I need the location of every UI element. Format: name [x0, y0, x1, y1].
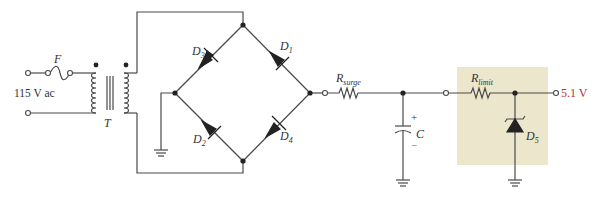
d4-label: D4 [279, 129, 293, 145]
output-voltage-label: 5.1 V [561, 86, 588, 100]
transformer-label: T [104, 116, 112, 130]
d3-label: D3 [191, 44, 205, 60]
rsurge-resistor-icon [328, 88, 403, 98]
cap-minus-label: − [411, 139, 417, 151]
circuit-diagram: F 115 V ac T D3 D1 D2 D4 Rsurge Rlimit +… [0, 0, 601, 200]
d1-label: D1 [279, 39, 293, 55]
d2-label: D2 [192, 132, 206, 148]
input-label: 115 V ac [14, 87, 55, 99]
rsurge-label: Rsurge [335, 71, 361, 87]
cap-plus-label: + [411, 111, 417, 123]
transformer-primary-icon [92, 73, 97, 113]
transformer-secondary-icon [124, 73, 129, 113]
fuse-label: F [53, 52, 62, 66]
capacitor-label: C [416, 127, 425, 141]
